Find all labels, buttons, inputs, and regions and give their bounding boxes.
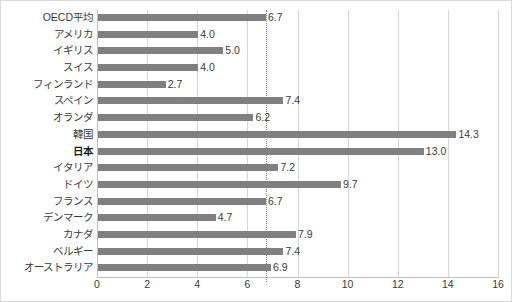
x-tick-label: 8 — [295, 278, 301, 290]
category-label: スイス — [63, 60, 93, 75]
category-label: オランダ — [53, 110, 93, 125]
x-tick-label: 10 — [342, 278, 354, 290]
bar-value-label: 2.7 — [166, 77, 183, 92]
bar — [98, 148, 424, 155]
bar — [98, 214, 216, 221]
plot-area: 6.74.05.04.02.77.46.214.313.07.29.76.74.… — [97, 10, 499, 278]
bar-value-label: 4.0 — [198, 27, 215, 42]
x-axis: 0246810121416 — [97, 278, 498, 296]
bar-value-label: 7.4 — [283, 244, 300, 259]
bar-row: 4.0 — [98, 60, 499, 75]
x-tick-label: 4 — [194, 278, 200, 290]
bar-value-label: 9.7 — [341, 177, 358, 192]
bar — [98, 114, 253, 121]
bar — [98, 164, 278, 171]
category-label: イギリス — [53, 43, 93, 58]
bar-value-label: 7.9 — [296, 227, 313, 242]
average-reference-line — [266, 10, 267, 282]
bar-value-label: 7.4 — [283, 93, 300, 108]
bar — [98, 14, 266, 21]
bar-row: 5.0 — [98, 43, 499, 58]
bar-row: 4.7 — [98, 210, 499, 225]
bar-row: 2.7 — [98, 77, 499, 92]
bar-chart: OECD平均アメリカイギリススイスフィンランドスペインオランダ韓国日本イタリアド… — [0, 0, 512, 302]
bar-value-label: 5.0 — [223, 43, 240, 58]
bar-row: 7.9 — [98, 227, 499, 242]
bar — [98, 181, 341, 188]
bar-row: 6.9 — [98, 260, 499, 275]
x-tick-label: 12 — [392, 278, 404, 290]
bar-value-label: 4.7 — [216, 210, 233, 225]
category-axis: OECD平均アメリカイギリススイスフィンランドスペインオランダ韓国日本イタリアド… — [1, 10, 97, 277]
category-label: 韓国 — [73, 127, 93, 142]
bar — [98, 248, 283, 255]
category-label: フランス — [53, 194, 93, 209]
bar — [98, 47, 223, 54]
bar-value-label: 14.3 — [456, 127, 478, 142]
bar-row: 13.0 — [98, 144, 499, 159]
category-label: デンマーク — [43, 210, 93, 225]
bar-row: 6.2 — [98, 110, 499, 125]
bar-row: 6.7 — [98, 194, 499, 209]
x-tick-label: 2 — [144, 278, 150, 290]
bar-row: 7.4 — [98, 93, 499, 108]
category-label: OECD平均 — [43, 10, 93, 25]
bar — [98, 198, 266, 205]
bar-row: 9.7 — [98, 177, 499, 192]
category-label: アメリカ — [54, 27, 93, 42]
bar-value-label: 6.9 — [271, 260, 288, 275]
bar-value-label: 13.0 — [424, 144, 446, 159]
bar — [98, 31, 198, 38]
category-label: カナダ — [63, 227, 93, 242]
category-label: 日本 — [73, 144, 93, 159]
bar — [98, 264, 271, 271]
bar-value-label: 6.2 — [253, 110, 270, 125]
bar-value-label: 7.2 — [278, 160, 295, 175]
category-label: フィンランド — [33, 77, 93, 92]
bar-row: 4.0 — [98, 27, 499, 42]
category-label: ドイツ — [63, 177, 93, 192]
bar-value-label: 6.7 — [266, 10, 283, 25]
bar — [98, 64, 198, 71]
bar-value-label: 6.7 — [266, 194, 283, 209]
category-label: スペイン — [54, 93, 93, 108]
bar-value-label: 4.0 — [198, 60, 215, 75]
x-tick-label: 6 — [244, 278, 250, 290]
category-label: ベルギー — [53, 244, 93, 259]
bar-row: 14.3 — [98, 127, 499, 142]
x-tick-label: 16 — [492, 278, 504, 290]
x-tick-label: 0 — [94, 278, 100, 290]
bar-row: 6.7 — [98, 10, 499, 25]
x-tick-label: 14 — [442, 278, 454, 290]
bar — [98, 97, 283, 104]
category-label: イタリア — [53, 160, 93, 175]
bar — [98, 131, 456, 138]
bar — [98, 81, 166, 88]
bar-row: 7.4 — [98, 244, 499, 259]
bar-row: 7.2 — [98, 160, 499, 175]
category-label: オーストラリア — [24, 260, 93, 275]
